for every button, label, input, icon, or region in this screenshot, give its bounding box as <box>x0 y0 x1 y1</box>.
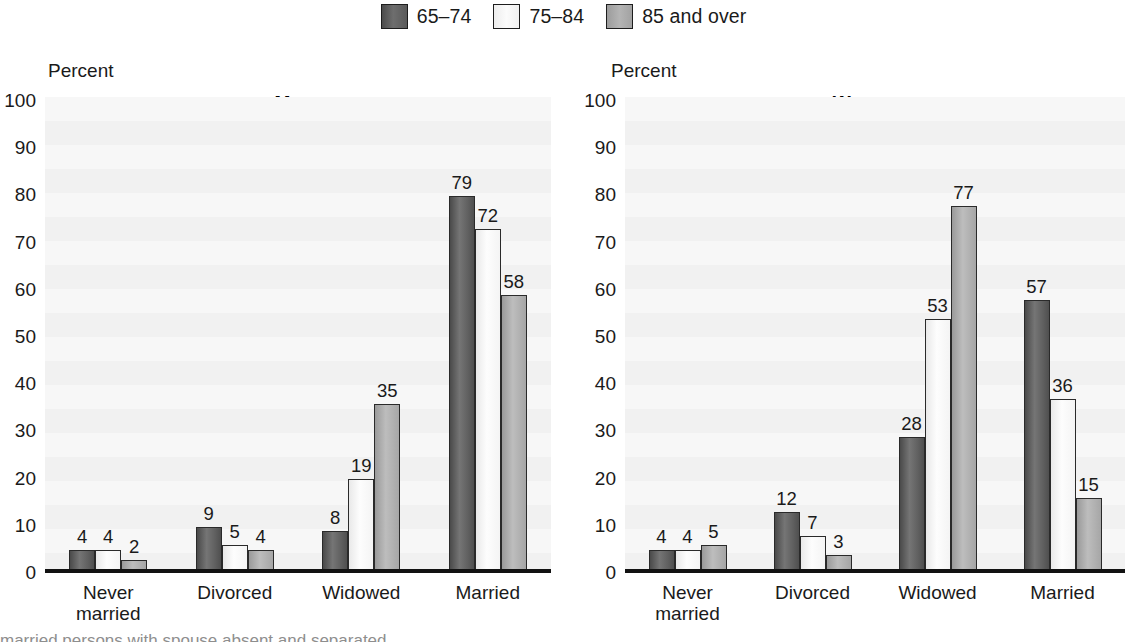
bar[interactable]: 58 <box>501 295 527 569</box>
bar[interactable]: 9 <box>196 527 222 569</box>
bar-group: 797258 <box>425 97 552 569</box>
y-axis-tick: 40 <box>595 373 616 395</box>
bar-container: 19 <box>348 97 374 569</box>
bar-container: 4 <box>675 97 701 569</box>
bar[interactable]: 2 <box>121 560 147 569</box>
category-label: Married <box>425 573 552 633</box>
bar[interactable]: 77 <box>951 206 977 569</box>
plot-area-men: 1009080706050403020100 44295481935797258… <box>45 97 551 573</box>
bar[interactable]: 36 <box>1050 399 1076 569</box>
chart-legend: 65–74 75–84 85 and over <box>0 4 1127 29</box>
bar[interactable]: 4 <box>69 550 95 569</box>
bar-value-label: 3 <box>833 531 843 553</box>
bar[interactable]: 4 <box>248 550 274 569</box>
bar-groups-women: 4451273285377573615 <box>625 97 1125 569</box>
bar[interactable]: 4 <box>95 550 121 569</box>
bar-container: 9 <box>196 97 222 569</box>
legend-swatch-icon <box>493 4 520 29</box>
bar[interactable]: 8 <box>322 531 348 569</box>
bar-container: 53 <box>925 97 951 569</box>
bar-value-label: 4 <box>103 526 113 548</box>
y-axis-tick: 60 <box>595 279 616 301</box>
y-axis-tick: 70 <box>15 232 36 254</box>
bar-value-label: 5 <box>230 521 240 543</box>
bar[interactable]: 53 <box>925 319 951 569</box>
category-label: Married <box>1000 573 1125 633</box>
chart-footnote: married persons with spouse absent and s… <box>0 631 1127 642</box>
legend-label: 65–74 <box>417 5 472 28</box>
bar-value-label: 9 <box>204 503 214 525</box>
y-axis-tick: 10 <box>15 515 36 537</box>
bar[interactable]: 4 <box>675 550 701 569</box>
category-label-line: married <box>625 603 750 624</box>
bar[interactable]: 28 <box>899 437 925 569</box>
y-axis-title: Percent <box>48 60 113 82</box>
bar-container: 5 <box>222 97 248 569</box>
bar-group: 81935 <box>298 97 425 569</box>
bar[interactable]: 15 <box>1076 498 1102 569</box>
bar-container: 5 <box>701 97 727 569</box>
bar[interactable]: 79 <box>449 196 475 569</box>
bar-container: 58 <box>501 97 527 569</box>
bar-container: 4 <box>69 97 95 569</box>
bar-value-label: 28 <box>901 413 922 435</box>
bar-value-label: 4 <box>256 526 266 548</box>
y-axis-tick: 20 <box>595 468 616 490</box>
category-label: Widowed <box>298 573 425 633</box>
category-label: Nevermarried <box>625 573 750 633</box>
bar[interactable]: 19 <box>348 479 374 569</box>
y-axis-tick: 40 <box>15 373 36 395</box>
bar[interactable]: 3 <box>826 555 852 569</box>
y-axis-tick: 100 <box>584 90 616 112</box>
bar[interactable]: 5 <box>222 545 248 569</box>
bar-value-label: 58 <box>503 271 524 293</box>
y-axis-tick: 10 <box>595 515 616 537</box>
bar[interactable]: 7 <box>800 536 826 569</box>
category-label-line: Never <box>45 582 172 603</box>
bar-value-label: 79 <box>451 172 472 194</box>
bar-value-label: 53 <box>927 295 948 317</box>
y-axis-tick: 80 <box>15 184 36 206</box>
category-labels-men: NevermarriedDivorcedWidowedMarried <box>45 573 551 633</box>
bar-container: 12 <box>774 97 800 569</box>
bar[interactable]: 57 <box>1024 300 1050 569</box>
bar-groups-men: 44295481935797258 <box>45 97 551 569</box>
y-axis-tick: 20 <box>15 468 36 490</box>
legend-swatch-icon <box>381 4 408 29</box>
bar-group: 573615 <box>1000 97 1125 569</box>
bar-container: 79 <box>449 97 475 569</box>
bar-value-label: 72 <box>477 205 498 227</box>
y-axis-tick: 90 <box>595 137 616 159</box>
bar-container: 3 <box>826 97 852 569</box>
plot-area-women: 1009080706050403020100 44512732853775736… <box>625 97 1125 573</box>
category-label-line: Married <box>1000 582 1125 603</box>
bar-value-label: 4 <box>656 526 666 548</box>
category-label-line: Married <box>425 582 552 603</box>
bar-group: 445 <box>625 97 750 569</box>
legend-item-65-74: 65–74 <box>381 4 472 29</box>
y-axis-tick: 0 <box>605 562 616 584</box>
legend-label: 85 and over <box>642 5 746 28</box>
y-axis-tick: 90 <box>15 137 36 159</box>
bar-container: 35 <box>374 97 400 569</box>
bar-value-label: 8 <box>330 507 340 529</box>
bar-value-label: 19 <box>351 455 372 477</box>
y-axis-tick: 50 <box>595 326 616 348</box>
category-label-line: Never <box>625 582 750 603</box>
bar[interactable]: 12 <box>774 512 800 569</box>
bar-container: 8 <box>322 97 348 569</box>
bar-value-label: 4 <box>682 526 692 548</box>
bar-container: 72 <box>475 97 501 569</box>
bar[interactable]: 35 <box>374 404 400 569</box>
bar-value-label: 2 <box>129 536 139 558</box>
bar-value-label: 77 <box>953 182 974 204</box>
bar-container: 28 <box>899 97 925 569</box>
bar[interactable]: 5 <box>701 545 727 569</box>
bar[interactable]: 72 <box>475 229 501 569</box>
bar-group: 285377 <box>875 97 1000 569</box>
bar[interactable]: 4 <box>649 550 675 569</box>
bar-group: 954 <box>172 97 299 569</box>
legend-swatch-icon <box>606 4 633 29</box>
category-labels-women: NevermarriedDivorcedWidowedMarried <box>625 573 1125 633</box>
bar-container: 7 <box>800 97 826 569</box>
